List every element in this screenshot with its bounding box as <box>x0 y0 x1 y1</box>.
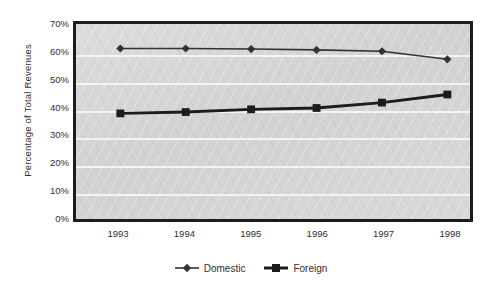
legend-item-domestic[interactable]: Domestic <box>174 262 246 274</box>
y-axis-tick-label: 50% <box>39 75 69 85</box>
data-point-foreign <box>313 104 321 112</box>
data-point-foreign <box>378 99 386 107</box>
data-point-domestic <box>312 46 320 54</box>
data-point-foreign <box>182 108 190 116</box>
series-line-domestic <box>120 49 447 60</box>
legend-marker-diamond-icon <box>174 262 200 274</box>
data-point-domestic <box>443 55 451 63</box>
y-axis-title: Percentage of Total Revenues <box>22 16 33 206</box>
legend-marker-square-icon <box>263 262 289 274</box>
x-axis-tick-label: 1994 <box>154 228 214 239</box>
data-point-domestic <box>247 45 255 53</box>
data-point-foreign <box>443 91 451 99</box>
legend-label: Foreign <box>293 263 327 274</box>
x-axis-tick-label: 1996 <box>287 228 347 239</box>
y-axis-tick-label: 60% <box>39 47 69 57</box>
legend-item-foreign[interactable]: Foreign <box>263 262 327 274</box>
x-axis-tick-label: 1995 <box>221 228 281 239</box>
data-point-domestic <box>116 44 124 52</box>
x-axis-tick-label: 1997 <box>354 228 414 239</box>
x-axis-tick-label: 1993 <box>88 228 148 239</box>
chart-legend: DomesticForeign <box>0 262 501 274</box>
y-axis-tick-labels: 70%60%50%40%30%20%10%0% <box>35 0 69 288</box>
plot-area <box>73 21 473 222</box>
data-point-foreign <box>247 105 255 113</box>
legend-label: Domestic <box>204 263 246 274</box>
y-axis-tick-label: 10% <box>39 186 69 196</box>
y-axis-tick-label: 40% <box>39 103 69 113</box>
data-point-domestic <box>378 47 386 55</box>
y-axis-tick-label: 20% <box>39 158 69 168</box>
y-axis-tick-label: 70% <box>39 19 69 29</box>
y-axis-tick-label: 30% <box>39 130 69 140</box>
y-axis-tick-label: 0% <box>39 214 69 224</box>
revenue-line-chart: Percentage of Total Revenues 70%60%50%40… <box>0 0 501 288</box>
data-point-foreign <box>116 110 124 118</box>
data-point-domestic <box>182 44 190 52</box>
series-layer <box>76 24 470 219</box>
x-axis-tick-label: 1998 <box>420 228 480 239</box>
series-line-foreign <box>120 94 447 113</box>
